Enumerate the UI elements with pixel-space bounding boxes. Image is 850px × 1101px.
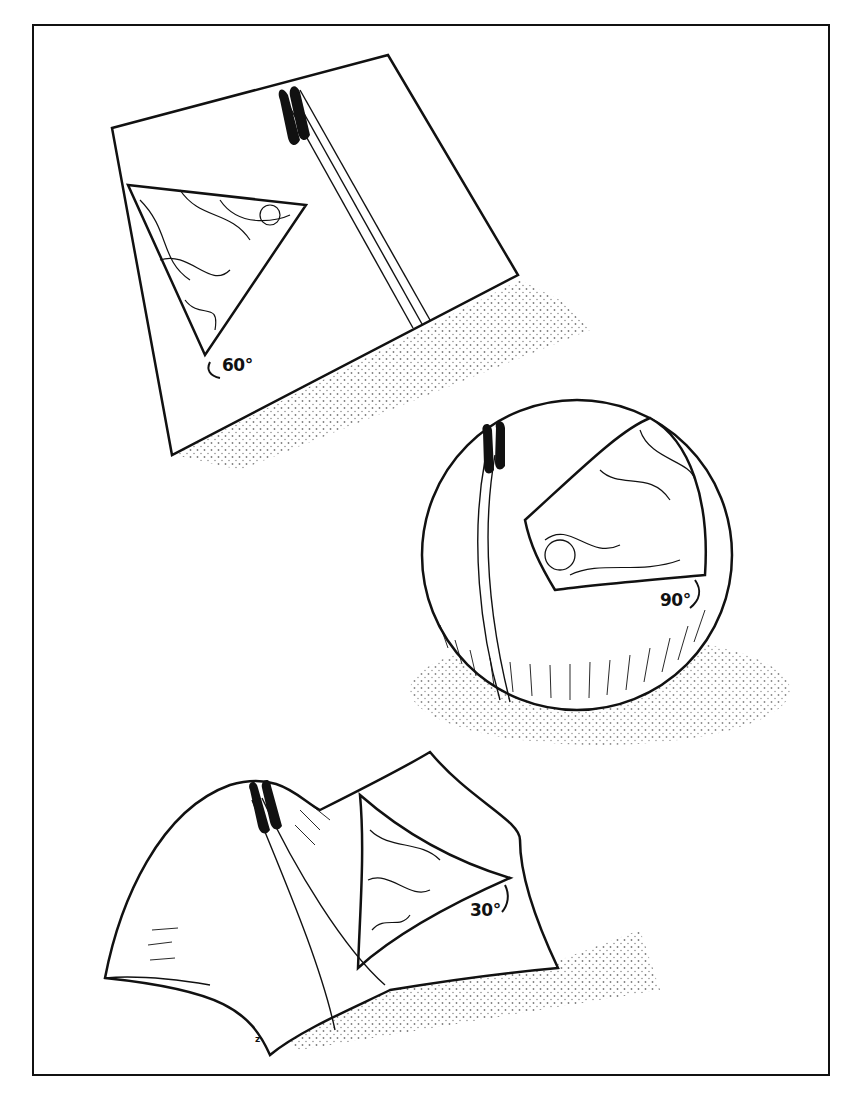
artist-signature: z bbox=[255, 1034, 260, 1044]
illustration bbox=[0, 0, 850, 1101]
saddle-drawing bbox=[105, 752, 660, 1055]
plane-angle-label: 60° bbox=[222, 355, 253, 375]
sphere-angle-label: 90° bbox=[660, 590, 691, 610]
saddle-angle-label: 30° bbox=[470, 900, 501, 920]
flat-plane-drawing bbox=[112, 55, 590, 470]
sphere-drawing bbox=[410, 400, 790, 745]
